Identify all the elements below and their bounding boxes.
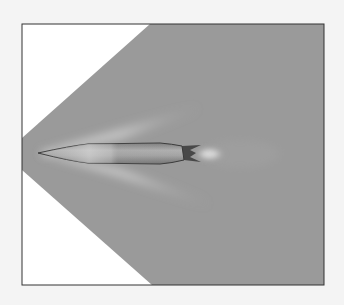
- wake-region: [200, 140, 280, 168]
- flow-field-plot: [0, 0, 344, 305]
- cfd-simulation-figure: [0, 0, 344, 305]
